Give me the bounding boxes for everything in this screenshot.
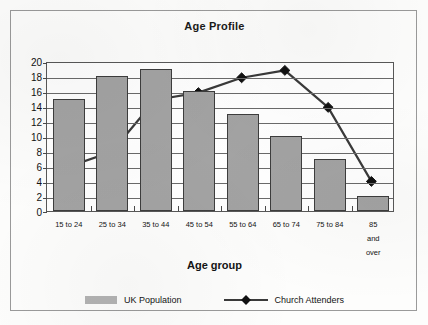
legend-diamond-icon <box>241 295 251 305</box>
y-axis-tick-label: 18 <box>31 73 42 83</box>
y-axis-tick-label: 0 <box>36 208 42 218</box>
x-axis-tick-mark <box>265 206 266 211</box>
legend-entry-uk-population: UK Population <box>85 295 182 305</box>
y-axis-tick-label: 4 <box>36 178 42 188</box>
x-axis-tick-mark <box>134 206 135 211</box>
plot-area: 15 to 24: 625 to 34: 835 to 44: 1545 to … <box>46 62 394 212</box>
plot-inner: 15 to 24: 625 to 34: 835 to 44: 1545 to … <box>47 63 393 211</box>
y-axis-tick-mark <box>43 153 47 154</box>
y-axis-tick-label: 16 <box>31 88 42 98</box>
x-axis-category-label: 15 to 24 <box>55 218 82 232</box>
y-axis-tick-mark <box>43 138 47 139</box>
bar-uk-population <box>96 76 128 211</box>
x-axis-tick-mark <box>221 206 222 211</box>
y-axis-tick-mark <box>43 93 47 94</box>
chart-frame: Age Profile 15 to 24: 625 to 34: 835 to … <box>10 10 417 311</box>
bar-uk-population <box>183 91 215 211</box>
x-axis-title: Age group <box>11 259 418 271</box>
legend-label-uk-population: UK Population <box>124 295 182 305</box>
y-axis-tick-label: 12 <box>31 118 42 128</box>
chart-page: Age Profile 15 to 24: 625 to 34: 835 to … <box>0 0 428 325</box>
x-axis-category-label: 65 to 74 <box>273 218 300 232</box>
bar-uk-population <box>357 196 389 211</box>
line-diamond-swatch-icon <box>224 295 268 305</box>
legend-entry-church-attenders: Church Attenders <box>224 295 345 305</box>
data-point-marker-church-attenders: 65 to 74: 19 <box>280 65 290 75</box>
bar-swatch-icon <box>85 296 117 304</box>
bar-uk-population <box>270 136 302 211</box>
y-axis-tick-mark <box>43 78 47 79</box>
x-axis-tick-mark <box>308 206 309 211</box>
y-axis-tick-label: 20 <box>31 58 42 68</box>
chart-title: Age Profile <box>11 20 418 32</box>
x-axis-category-label: 45 to 54 <box>186 218 213 232</box>
y-axis-tick-label: 6 <box>36 163 42 173</box>
y-axis-tick-label: 10 <box>31 133 42 143</box>
y-axis-tick-mark <box>43 183 47 184</box>
x-axis-tick-mark <box>352 206 353 211</box>
y-axis-tick-mark <box>43 63 47 64</box>
x-axis-category-label: 85 and over <box>363 218 383 260</box>
bar-uk-population <box>53 99 85 212</box>
y-axis-tick-mark <box>43 168 47 169</box>
chart-legend: UK Population Church Attenders <box>11 295 418 305</box>
y-axis-tick-mark <box>43 108 47 109</box>
legend-label-church-attenders: Church Attenders <box>275 295 345 305</box>
y-axis-tick-label: 14 <box>31 103 42 113</box>
x-axis-tick-mark <box>91 206 92 211</box>
x-axis-tick-mark <box>178 206 179 211</box>
x-axis-category-label: 25 to 34 <box>99 218 126 232</box>
x-axis-category-label: 55 to 64 <box>229 218 256 232</box>
y-axis-tick-mark <box>43 123 47 124</box>
y-axis-tick-mark <box>43 198 47 199</box>
bar-uk-population <box>314 159 346 212</box>
y-axis-tick-label: 8 <box>36 148 42 158</box>
data-point-marker-church-attenders: 85 and over: 4 <box>366 176 376 186</box>
x-axis-category-label: 75 to 84 <box>316 218 343 232</box>
y-axis-tick-label: 2 <box>36 193 42 203</box>
y-axis-tick-mark <box>43 212 47 213</box>
bar-uk-population <box>227 114 259 212</box>
x-axis-category-label: 35 to 44 <box>142 218 169 232</box>
bar-uk-population <box>140 69 172 212</box>
